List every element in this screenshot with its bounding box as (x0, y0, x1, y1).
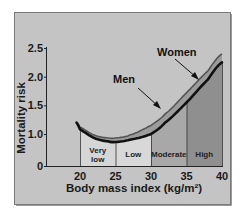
y-tick-label: 2.0 (28, 71, 43, 83)
y-tick-label: 2.5 (28, 42, 43, 54)
women-label: Women (157, 46, 197, 58)
y-axis-title: Mortality risk (15, 82, 27, 154)
zone-label: low (91, 155, 105, 164)
men-label: Men (113, 73, 135, 85)
zone-label: Low (125, 150, 142, 159)
zone-label: High (195, 150, 213, 159)
y-tick-label: 0 (37, 160, 43, 172)
x-axis-title: Body mass index (kg/m²) (66, 182, 202, 194)
x-tick-label: 30 (145, 170, 157, 182)
x-tick-label: 25 (109, 170, 121, 182)
y-tick-label: 1.5 (28, 99, 43, 111)
y-tick-label: 1.0 (28, 128, 43, 140)
x-tick-label: 35 (180, 170, 192, 182)
chart: 01.01.52.02.5 2025303540 VerylowLowModer… (0, 0, 242, 213)
x-tick-label: 40 (216, 170, 228, 182)
zone-label: Moderate (151, 150, 187, 159)
x-tick-label: 20 (74, 170, 86, 182)
zone-label: Very (89, 146, 106, 155)
